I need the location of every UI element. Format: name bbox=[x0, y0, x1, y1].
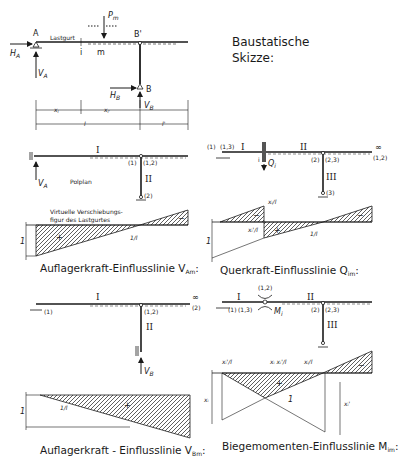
label-b: B bbox=[146, 85, 152, 94]
svg-text:(1): (1) bbox=[128, 159, 137, 166]
svg-text:VB: VB bbox=[144, 367, 154, 377]
sketch-title-1: Baustatische bbox=[232, 35, 309, 49]
svg-text:Mi: Mi bbox=[274, 307, 283, 317]
label-b-prime: B' bbox=[134, 30, 142, 39]
svg-text:(1): (1) bbox=[44, 308, 53, 315]
svg-text:(1,2): (1,2) bbox=[143, 159, 157, 166]
panel-va-influence: I II (1) (1,2) (2) VA Polplan Virtuelle … bbox=[20, 145, 199, 275]
svg-text:II: II bbox=[146, 322, 154, 332]
panel-q-influence: (1) (1,3) I II III i Qi (2) (2,3) (3) ∞ … bbox=[206, 142, 387, 277]
svg-text:(1,2): (1,2) bbox=[144, 308, 158, 315]
svg-text:−: − bbox=[178, 214, 185, 223]
svg-text:∞: ∞ bbox=[192, 293, 199, 302]
sketch-title-2: Skizze: bbox=[232, 51, 274, 65]
dim-xip: xi' bbox=[103, 106, 110, 114]
label-vb: VB bbox=[144, 101, 154, 111]
svg-text:xᵢ: xᵢ bbox=[203, 396, 209, 403]
svg-text:xᵢ/l: xᵢ/l bbox=[267, 198, 277, 205]
svg-text:(1): (1) bbox=[207, 143, 216, 150]
svg-text:(1,3): (1,3) bbox=[220, 143, 234, 150]
svg-text:I: I bbox=[241, 142, 245, 152]
support-b-icon bbox=[137, 84, 143, 89]
label-hb: HB bbox=[110, 91, 120, 101]
svg-text:+: + bbox=[276, 379, 283, 388]
svg-text:−: − bbox=[357, 211, 364, 220]
svg-text:(1,3): (1,3) bbox=[238, 306, 252, 313]
svg-text:−: − bbox=[253, 211, 260, 220]
svg-text:(2): (2) bbox=[144, 192, 153, 199]
label-i: i bbox=[80, 48, 82, 57]
caption-va: Auflagerkraft-Einflusslinie VAm: bbox=[40, 262, 199, 275]
svg-text:II: II bbox=[307, 292, 315, 302]
svg-text:figur des Lastgurtes: figur des Lastgurtes bbox=[50, 216, 110, 224]
structural-sketch: A Lastgurt B' B HA VA Pm HB VB i m xi xi… bbox=[10, 11, 309, 130]
svg-text:(1): (1) bbox=[228, 306, 237, 313]
svg-text:III: III bbox=[327, 320, 338, 330]
svg-text:(2): (2) bbox=[311, 156, 320, 163]
svg-text:Virtuelle Verschiebungs-: Virtuelle Verschiebungs- bbox=[50, 208, 123, 216]
svg-text:Polplan: Polplan bbox=[70, 178, 92, 186]
panel-vb-influence: I II (1) (1,2) ∞ (2) VB 1 + 1/l Auflager… bbox=[20, 292, 206, 457]
svg-text:I: I bbox=[96, 292, 100, 302]
caption-q: Querkraft-Einflusslinie Qim: bbox=[220, 264, 359, 277]
svg-text:(3): (3) bbox=[326, 189, 335, 196]
svg-text:+: + bbox=[56, 233, 63, 242]
label-m: m bbox=[97, 48, 105, 57]
panel-m-influence: (1,2) I II III (1) (1,3) (2) (2,3) Mi xᵢ… bbox=[203, 284, 398, 453]
label-pm: Pm bbox=[108, 11, 119, 21]
dim-l: l bbox=[84, 120, 86, 127]
svg-text:(2): (2) bbox=[192, 304, 201, 311]
influence-lines-figure: A Lastgurt B' B HA VA Pm HB VB i m xi xi… bbox=[0, 0, 402, 468]
label-va: VA bbox=[38, 69, 48, 79]
dim-xi: xi bbox=[53, 106, 60, 114]
svg-text:1/l: 1/l bbox=[60, 404, 68, 411]
svg-text:xᵢ'/l: xᵢ'/l bbox=[247, 226, 258, 233]
svg-text:1: 1 bbox=[206, 237, 211, 246]
svg-text:1/l: 1/l bbox=[310, 230, 318, 237]
svg-text:(1,2): (1,2) bbox=[258, 284, 272, 291]
svg-text:(1,2): (1,2) bbox=[373, 154, 387, 161]
label-lastgurt: Lastgurt bbox=[50, 34, 76, 42]
caption-vb: Auflagerkraft - Einflusslinie VBm: bbox=[40, 444, 206, 457]
svg-text:III: III bbox=[326, 172, 337, 182]
svg-text:VA: VA bbox=[38, 179, 48, 189]
svg-text:(2,3): (2,3) bbox=[325, 156, 339, 163]
svg-text:xᵢ/l: xᵢ/l bbox=[303, 358, 313, 365]
svg-text:Qi: Qi bbox=[268, 159, 276, 169]
svg-text:i: i bbox=[258, 156, 260, 163]
svg-text:II: II bbox=[300, 142, 308, 152]
caption-m: Biegemomenten-Einflusslinie Mim: bbox=[222, 440, 398, 453]
label-a: A bbox=[33, 29, 39, 38]
svg-text:(2): (2) bbox=[311, 306, 320, 313]
svg-text:1: 1 bbox=[20, 407, 25, 416]
svg-text:I: I bbox=[96, 145, 100, 155]
svg-text:1: 1 bbox=[20, 237, 25, 246]
svg-text:+: + bbox=[124, 401, 131, 410]
svg-text:II: II bbox=[145, 174, 153, 184]
label-ha: HA bbox=[10, 49, 20, 59]
svg-text:xᵢ': xᵢ' bbox=[343, 400, 351, 407]
svg-text:∞: ∞ bbox=[375, 143, 382, 152]
svg-text:(2,3): (2,3) bbox=[325, 306, 339, 313]
svg-text:I: I bbox=[237, 292, 241, 302]
svg-text:xᵢ'/l: xᵢ'/l bbox=[221, 358, 232, 365]
svg-text:1: 1 bbox=[288, 395, 293, 404]
dim-lp: l' bbox=[162, 120, 166, 127]
svg-text:−: − bbox=[358, 361, 365, 370]
svg-text:1/l: 1/l bbox=[130, 234, 138, 241]
svg-text:+: + bbox=[274, 226, 281, 235]
svg-text:xᵢ xᵢ'/l: xᵢ xᵢ'/l bbox=[269, 358, 287, 365]
